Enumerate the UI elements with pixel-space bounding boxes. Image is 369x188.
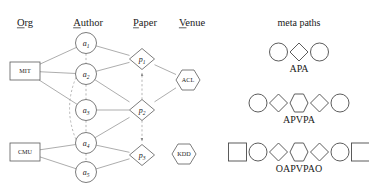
org-node-cmu[interactable]: CMU bbox=[10, 143, 40, 161]
paper-node-p2[interactable]: p2 bbox=[130, 100, 155, 121]
edge-a2-p2 bbox=[95, 80, 130, 102]
edge-p2-ACL bbox=[155, 88, 177, 102]
meta-path-shape-square bbox=[229, 143, 247, 161]
org-node-label: MIT bbox=[19, 67, 31, 74]
org-node-mit[interactable]: MIT bbox=[10, 62, 40, 80]
edge-a4-p3 bbox=[96, 145, 129, 152]
paper-node-p1[interactable]: p1 bbox=[130, 49, 155, 70]
venue-node-kdd[interactable]: KDD bbox=[172, 144, 196, 164]
author-node-a1[interactable]: a1 bbox=[76, 33, 97, 54]
schema-and-metapaths-diagram: OrgAuthorPaperVenue MITCMUa1a2a3a4a5p1p2… bbox=[0, 0, 369, 188]
author-node-a3[interactable]: a3 bbox=[76, 100, 97, 121]
meta-path-shape-hexagon bbox=[290, 143, 308, 161]
figure-canvas: OrgAuthorPaperVenue MITCMUa1a2a3a4a5p1p2… bbox=[0, 0, 369, 188]
column-header-author: Author bbox=[73, 17, 103, 28]
column-header-venue: Venue bbox=[179, 17, 206, 28]
meta-path-shape-hexagon bbox=[290, 94, 308, 112]
paper-node-p3[interactable]: p3 bbox=[130, 145, 155, 166]
edge-MIT-a3 bbox=[39, 80, 77, 104]
meta-path-shape-circle bbox=[331, 143, 349, 161]
column-header-org: Org bbox=[17, 17, 34, 28]
meta-path-shape-diamond bbox=[270, 94, 288, 112]
network-nodes-layer: MITCMUa1a2a3a4a5p1p2p3ACLKDD bbox=[10, 33, 200, 183]
edge-a5-p3 bbox=[96, 159, 129, 169]
meta-path-row-apvpa: APVPA bbox=[249, 94, 349, 125]
meta-path-caption: OAPVPAO bbox=[276, 163, 322, 174]
author-node-a2[interactable]: a2 bbox=[76, 64, 97, 85]
edge-CMU-a4 bbox=[40, 145, 76, 150]
meta-path-row-apa: APA bbox=[270, 43, 329, 74]
meta-paths-layer: meta pathsAPAAPVPAOAPVPAO bbox=[229, 17, 369, 174]
venue-node-label: KDD bbox=[177, 150, 191, 157]
column-header-paper: Paper bbox=[133, 17, 157, 28]
meta-path-caption: APA bbox=[289, 63, 309, 74]
edge-a4-p2 bbox=[95, 117, 129, 137]
meta-paths-title: meta paths bbox=[277, 17, 320, 28]
venue-node-label: ACL bbox=[182, 76, 195, 83]
edge-CMU-a5 bbox=[40, 157, 76, 169]
column-headers-layer: OrgAuthorPaperVenue bbox=[17, 17, 206, 28]
dashed-edge-a2-a4 bbox=[70, 77, 77, 139]
meta-path-shape-circle bbox=[311, 43, 329, 61]
venue-node-acl[interactable]: ACL bbox=[176, 70, 200, 90]
edges-layer bbox=[39, 46, 176, 169]
meta-path-shape-circle bbox=[249, 143, 267, 161]
meta-path-shape-diamond bbox=[311, 143, 329, 161]
meta-path-shape-diamond bbox=[270, 143, 288, 161]
edge-a2-p1 bbox=[96, 62, 129, 71]
column-header-label: Venue bbox=[179, 17, 206, 28]
edge-a1-p1 bbox=[96, 46, 129, 56]
meta-path-shape-diamond bbox=[311, 94, 329, 112]
meta-path-shape-square bbox=[352, 143, 369, 161]
meta-path-shape-circle bbox=[270, 43, 288, 61]
meta-path-shape-diamond bbox=[290, 43, 308, 61]
meta-path-shape-circle bbox=[331, 94, 349, 112]
author-node-a5[interactable]: a5 bbox=[76, 162, 97, 183]
meta-path-row-oapvpao: OAPVPAO bbox=[229, 143, 369, 174]
column-header-label: Paper bbox=[133, 17, 157, 28]
column-header-label: Org bbox=[17, 17, 34, 28]
meta-path-shape-circle bbox=[249, 94, 267, 112]
author-node-a4[interactable]: a4 bbox=[76, 133, 97, 154]
meta-path-caption: APVPA bbox=[283, 114, 316, 125]
edge-MIT-a1 bbox=[40, 47, 76, 64]
edge-MIT-a2 bbox=[40, 72, 76, 74]
org-node-label: CMU bbox=[18, 148, 33, 155]
edge-p1-ACL bbox=[155, 65, 177, 75]
column-header-label: Author bbox=[73, 17, 103, 28]
